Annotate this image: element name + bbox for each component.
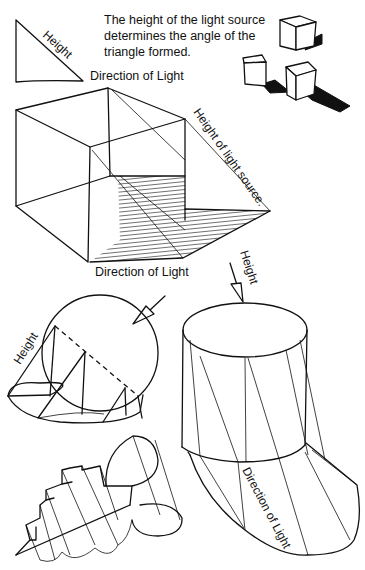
cylinder-direction-label: Direction of Light — [239, 465, 294, 552]
box-direction-label: Direction of Light — [95, 265, 189, 279]
sphere-height-label: Height — [11, 329, 42, 366]
caption-line-2: determines the angle of the — [104, 29, 256, 43]
shadow-construction-illustration: The height of the light source determine… — [0, 0, 365, 570]
sphere-diagram: Height — [8, 295, 165, 423]
triangle-direction-label: Direction of Light — [90, 69, 184, 83]
cylinder-diagram: Height Direction of Light — [182, 249, 359, 556]
cubes-with-shadows — [243, 16, 350, 112]
caption-line-1: The height of the light source — [104, 13, 265, 27]
open-box-diagram: Height of light source. Direction of Lig… — [16, 88, 280, 279]
caption-line-3: triangle formed. — [104, 45, 191, 59]
box-height-label: Height of light source. — [191, 106, 269, 209]
caption: The height of the light source determine… — [104, 13, 265, 59]
triangle-height-label: Height — [40, 28, 76, 62]
stepped-form-diagram — [16, 436, 182, 561]
cylinder-height-label: Height — [237, 249, 261, 287]
